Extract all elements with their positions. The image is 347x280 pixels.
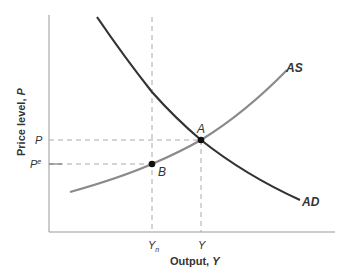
point-A-marker bbox=[198, 137, 205, 144]
point-B-label: B bbox=[158, 165, 166, 179]
ad-label: AD bbox=[301, 195, 320, 209]
tick-label-Pe: Pe bbox=[30, 158, 41, 170]
tick-label-P: P bbox=[35, 134, 43, 146]
as-curve bbox=[70, 70, 287, 192]
point-A-label: A bbox=[196, 122, 205, 136]
y-axis-title: Price level, P bbox=[15, 87, 27, 156]
x-axis-title: Output, Y bbox=[170, 255, 221, 267]
point-B-marker bbox=[149, 161, 156, 168]
chart-canvas: A B AS AD P Pe Yn Y Output, Y Price leve… bbox=[0, 0, 347, 280]
tick-label-Y: Y bbox=[198, 239, 206, 251]
tick-label-Yn: Yn bbox=[148, 239, 159, 253]
as-label: AS bbox=[285, 61, 303, 75]
ad-curve bbox=[97, 17, 300, 200]
